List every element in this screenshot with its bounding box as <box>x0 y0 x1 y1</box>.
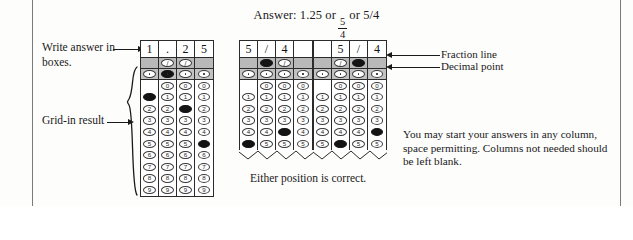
digit-bubble-4[interactable]: 4 <box>334 128 347 136</box>
grid-cell[interactable]: 1 <box>350 92 368 104</box>
fraction-line-bubble[interactable]: / <box>352 59 365 67</box>
grid-cell[interactable]: 2 <box>141 103 159 115</box>
digit-row-4[interactable]: 4444 <box>314 126 386 138</box>
fraction-line-bubble[interactable]: / <box>161 59 174 67</box>
digit-bubble-4[interactable]: 4 <box>242 128 255 136</box>
fraction-line-bubble[interactable]: / <box>278 59 291 67</box>
digit-bubble-3[interactable]: 3 <box>161 116 174 124</box>
grid-cell[interactable]: 1 <box>276 92 294 104</box>
grid-cell[interactable] <box>159 69 177 80</box>
grid-cell[interactable]: 5 <box>350 138 368 150</box>
digit-bubble-0[interactable]: 0 <box>352 82 365 90</box>
digit-bubble-1[interactable]: 1 <box>316 93 329 101</box>
digit-bubble-2[interactable]: 2 <box>242 105 255 113</box>
fraction-line-bubble[interactable]: / <box>334 59 347 67</box>
grid-cell[interactable]: 1 <box>368 92 386 104</box>
digit-bubble-4[interactable]: 4 <box>260 128 273 136</box>
digit-bubble-0[interactable]: 0 <box>260 82 273 90</box>
digit-bubble-0[interactable]: 0 <box>278 82 291 90</box>
written-answer-cell[interactable]: / <box>350 41 368 58</box>
decimal-point-bubble[interactable] <box>161 70 174 78</box>
digit-bubble-3[interactable]: 3 <box>316 116 329 124</box>
grid-cell[interactable]: 4 <box>314 126 332 138</box>
digit-bubble-7[interactable]: 7 <box>179 163 192 171</box>
grid-cell[interactable]: 4 <box>350 126 368 138</box>
grid-cell[interactable] <box>258 69 276 80</box>
grid-cell[interactable]: 0 <box>258 80 276 92</box>
grid-cell[interactable]: / <box>177 58 195 69</box>
fraction-line-bubble[interactable]: / <box>260 59 273 67</box>
digit-row-0[interactable]: 000 <box>240 80 312 92</box>
digit-row-1[interactable]: 1111 <box>141 92 213 104</box>
grid-cell[interactable]: 0 <box>350 80 368 92</box>
grid-in-fraction-right[interactable]: 5/4//00011112222333344445555 <box>313 40 387 150</box>
digit-bubble-1[interactable]: 1 <box>143 93 156 101</box>
grid-cell[interactable]: / <box>159 58 177 69</box>
digit-bubble-5[interactable]: 5 <box>161 140 174 148</box>
grid-cell[interactable]: 4 <box>177 126 195 138</box>
written-answer-row[interactable]: 1.25 <box>141 41 213 58</box>
grid-cell[interactable]: 0 <box>294 80 312 92</box>
digit-bubble-5[interactable]: 5 <box>143 140 156 148</box>
grid-cell[interactable] <box>240 80 258 92</box>
digit-row-5[interactable]: 5555 <box>314 138 386 150</box>
digit-row-3[interactable]: 3333 <box>240 115 312 127</box>
digit-bubble-1[interactable]: 1 <box>352 93 365 101</box>
digit-bubble-2[interactable]: 2 <box>198 105 211 113</box>
grid-cell[interactable]: 3 <box>195 115 213 127</box>
grid-cell[interactable]: 2 <box>294 103 312 115</box>
grid-cell[interactable]: / <box>258 58 276 69</box>
grid-cell[interactable]: 5 <box>368 138 386 150</box>
grid-cell[interactable]: 4 <box>159 126 177 138</box>
digit-bubble-1[interactable]: 1 <box>179 93 192 101</box>
digit-row-4[interactable]: 4444 <box>240 126 312 138</box>
grid-cell[interactable]: 2 <box>314 103 332 115</box>
grid-cell[interactable]: 1 <box>141 92 159 104</box>
digit-bubble-5[interactable]: 5 <box>278 140 291 148</box>
digit-row-5[interactable]: 5555 <box>240 138 312 150</box>
decimal-point-bubble[interactable] <box>297 70 310 78</box>
digit-bubble-3[interactable]: 3 <box>198 116 211 124</box>
digit-row-2[interactable]: 2222 <box>314 103 386 115</box>
grid-cell[interactable] <box>294 58 312 69</box>
digit-bubble-4[interactable]: 4 <box>316 128 329 136</box>
grid-cell[interactable]: 7 <box>141 161 159 173</box>
digit-bubble-2[interactable]: 2 <box>260 105 273 113</box>
grid-cell[interactable]: 1 <box>195 92 213 104</box>
digit-bubble-6[interactable]: 6 <box>179 151 192 159</box>
grid-cell[interactable]: 5 <box>258 138 276 150</box>
grid-cell[interactable]: 0 <box>195 80 213 92</box>
grid-cell[interactable]: 3 <box>350 115 368 127</box>
grid-cell[interactable]: / <box>276 58 294 69</box>
grid-cell[interactable]: 8 <box>177 173 195 185</box>
grid-cell[interactable]: 3 <box>294 115 312 127</box>
written-answer-cell[interactable]: 5 <box>240 41 258 58</box>
digit-row-9[interactable]: 9999 <box>141 184 213 196</box>
digit-bubble-4[interactable]: 4 <box>179 128 192 136</box>
grid-cell[interactable]: 3 <box>177 115 195 127</box>
digit-bubble-3[interactable]: 3 <box>242 116 255 124</box>
grid-cell[interactable]: 5 <box>294 138 312 150</box>
grid-cell[interactable]: 5 <box>195 138 213 150</box>
grid-cell[interactable]: 7 <box>195 161 213 173</box>
grid-cell[interactable]: 2 <box>276 103 294 115</box>
digit-bubble-6[interactable]: 6 <box>161 151 174 159</box>
grid-cell[interactable]: 5 <box>240 138 258 150</box>
grid-cell[interactable] <box>177 69 195 80</box>
grid-cell[interactable]: 6 <box>177 150 195 162</box>
digit-bubble-1[interactable]: 1 <box>334 93 347 101</box>
grid-cell[interactable]: 1 <box>159 92 177 104</box>
decimal-point-bubble[interactable] <box>352 70 365 78</box>
digit-bubble-5[interactable]: 5 <box>352 140 365 148</box>
grid-cell[interactable] <box>141 58 159 69</box>
digit-bubble-6[interactable]: 6 <box>198 151 211 159</box>
fraction-line-row[interactable]: // <box>141 58 213 69</box>
grid-cell[interactable]: 4 <box>141 126 159 138</box>
written-answer-cell[interactable]: 4 <box>368 41 386 58</box>
grid-cell[interactable]: 5 <box>332 138 350 150</box>
grid-cell[interactable]: 2 <box>332 103 350 115</box>
grid-cell[interactable] <box>294 69 312 80</box>
digit-bubble-2[interactable]: 2 <box>161 105 174 113</box>
digit-bubble-3[interactable]: 3 <box>371 116 384 124</box>
grid-cell[interactable]: / <box>332 58 350 69</box>
